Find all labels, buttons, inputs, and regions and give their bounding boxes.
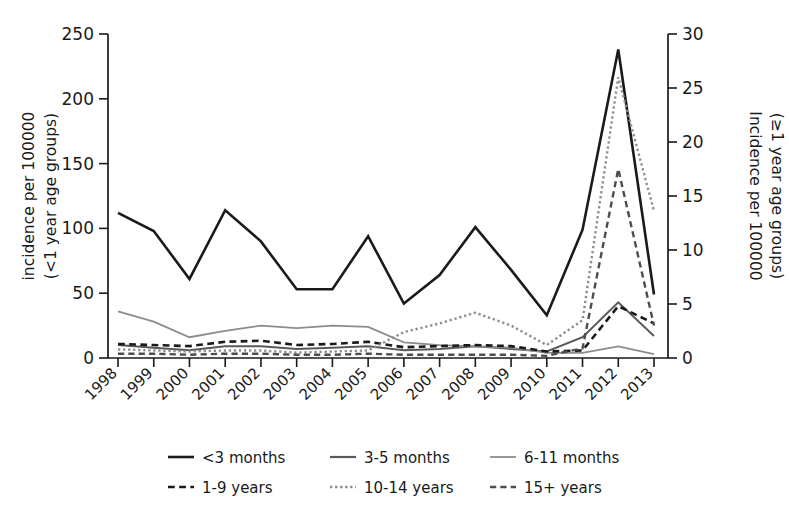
legend-label: 1-9 years	[202, 479, 273, 497]
x-tick-label: 1998	[81, 364, 121, 404]
series-group	[118, 50, 654, 356]
left-tick-label: 200	[62, 89, 94, 109]
x-tick-label: 2012	[581, 364, 621, 404]
left-tick-label: 250	[62, 24, 94, 44]
x-tick-label: 2003	[260, 364, 300, 404]
x-tick-label: 2013	[617, 364, 657, 404]
x-tick-label: 2000	[153, 364, 193, 404]
right-tick-label: 30	[682, 24, 704, 44]
right-tick-label: 0	[682, 348, 693, 368]
x-tick-label: 2006	[367, 364, 407, 404]
legend-label: 3-5 months	[364, 449, 450, 467]
left-axis-title-line1: incidence per 100000	[20, 112, 38, 281]
series-line	[118, 50, 654, 316]
x-tick-label: 2005	[331, 364, 371, 404]
left-tick-label: 100	[62, 218, 94, 238]
left-axis-title-line2: (<1 year age groups)	[42, 113, 60, 279]
left-tick-label: 0	[83, 348, 94, 368]
right-tick-label: 25	[682, 78, 704, 98]
right-tick-label: 5	[682, 294, 693, 314]
legend-label: 15+ years	[524, 479, 602, 497]
legend-label: <3 months	[202, 449, 286, 467]
x-axis: 1998199920002001200220032004200520062007…	[81, 358, 657, 404]
right-axis-title-line1: Incidence per 100000	[746, 111, 764, 280]
x-tick-label: 2001	[188, 364, 228, 404]
legend-label: 6-11 months	[524, 449, 619, 467]
right-axis-title: Incidence per 100000(≥1 year age groups)	[746, 111, 786, 280]
left-tick-label: 150	[62, 154, 94, 174]
x-tick-label: 2009	[474, 364, 514, 404]
series-line	[118, 306, 654, 351]
incidence-line-chart: incidence per 100000(<1 year age groups)…	[0, 0, 789, 510]
x-tick-label: 2004	[295, 364, 335, 404]
right-tick-label: 20	[682, 132, 704, 152]
chart-legend: <3 months3-5 months6-11 months1-9 years1…	[168, 449, 619, 497]
x-tick-label: 2011	[546, 364, 586, 404]
right-y-axis: 051015202530	[668, 24, 704, 368]
x-tick-label: 1999	[117, 364, 157, 404]
x-tick-label: 2008	[438, 364, 478, 404]
x-tick-label: 2002	[224, 364, 264, 404]
x-tick-label: 2007	[403, 364, 443, 404]
left-tick-label: 50	[72, 283, 94, 303]
right-tick-label: 10	[682, 240, 704, 260]
legend-label: 10-14 years	[364, 479, 454, 497]
chart-canvas: incidence per 100000(<1 year age groups)…	[0, 0, 789, 510]
series-line	[118, 77, 654, 352]
left-axis-title: incidence per 100000(<1 year age groups)	[20, 112, 60, 281]
right-tick-label: 15	[682, 186, 704, 206]
right-axis-title-line2: (≥1 year age groups)	[768, 113, 786, 279]
left-y-axis: 050100150200250	[62, 24, 668, 368]
x-tick-label: 2010	[510, 364, 550, 404]
